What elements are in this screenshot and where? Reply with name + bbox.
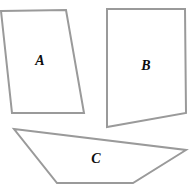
shape-label-b: B bbox=[140, 58, 150, 73]
shape-label-a: A bbox=[34, 53, 44, 68]
geometry-figure: A B C bbox=[0, 0, 192, 191]
shape-label-c: C bbox=[91, 151, 101, 166]
figure-svg: A B C bbox=[0, 0, 192, 191]
